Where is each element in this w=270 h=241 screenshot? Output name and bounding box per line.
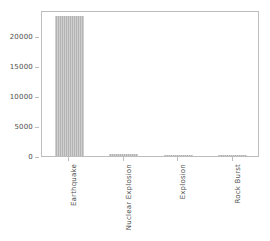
x-tick-label: Rock Burst xyxy=(235,164,242,203)
x-tick-label: Nuclear Explosion xyxy=(126,164,133,230)
y-tick-mark xyxy=(35,97,39,98)
x-tick-label: Earthquake xyxy=(71,164,78,206)
bar xyxy=(218,155,247,156)
x-tick-mark xyxy=(232,157,233,161)
x-tick-mark xyxy=(68,157,69,161)
x-axis: EarthquakeNuclear ExplosionExplosionRock… xyxy=(0,157,270,241)
bar xyxy=(109,154,138,156)
x-tick-mark xyxy=(177,157,178,161)
y-tick-mark xyxy=(35,37,39,38)
y-tick-label: 20000 xyxy=(10,33,33,40)
y-tick-mark xyxy=(35,67,39,68)
bar xyxy=(164,155,193,156)
y-tick-mark xyxy=(35,127,39,128)
x-tick-label: Explosion xyxy=(180,164,187,199)
plot-area xyxy=(42,12,258,156)
y-tick-label: 10000 xyxy=(10,93,33,100)
bar-chart-figure: 05000100001500020000 EarthquakeNuclear E… xyxy=(0,0,270,241)
bar xyxy=(55,16,84,156)
x-tick-mark xyxy=(123,157,124,161)
y-tick-label: 15000 xyxy=(10,63,33,70)
plot-frame xyxy=(41,11,259,157)
y-tick-label: 5000 xyxy=(14,123,33,130)
